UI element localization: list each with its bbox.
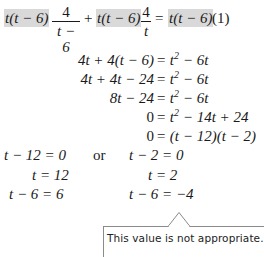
- step-3-rhs: = t2 − 6t: [156, 90, 208, 107]
- step-3-lhs: 8t − 24: [110, 90, 154, 107]
- step-1-lhs: 4t + 4(t − 6): [78, 52, 154, 69]
- highlight-term-1: t(t − 6): [4, 10, 49, 27]
- fraction-4-over-t: 4 t: [141, 4, 151, 39]
- fraction-4-over-t-minus-6: 4 t − 6: [52, 4, 80, 55]
- case-right-2: t = 2: [148, 167, 177, 184]
- plus-sign: +: [84, 10, 92, 27]
- step-2-rhs: = t2 − 6t: [156, 71, 208, 88]
- step-2-lhs: 4t + 4t − 24: [80, 71, 154, 88]
- case-left-3: t − 6 = 6: [9, 186, 63, 203]
- step-1-rhs: = t2 − 6t: [156, 52, 208, 69]
- highlight-term-3: t(t − 6): [168, 10, 213, 27]
- case-left-2: t = 12: [32, 167, 69, 184]
- step-4-rhs: = t2 − 14t + 24: [156, 109, 248, 126]
- case-left-1: t − 12 = 0: [4, 147, 66, 164]
- step-5-rhs: = (t − 12)(t − 2): [156, 128, 256, 145]
- equals-sign: =: [155, 10, 163, 27]
- case-right-1: t − 2 = 0: [129, 147, 183, 164]
- callout-pointer-icon: [168, 212, 190, 227]
- step-4-lhs: 0: [147, 109, 155, 126]
- step-5-lhs: 0: [147, 128, 155, 145]
- case-right-3: t − 6 = −4: [129, 186, 194, 203]
- callout-text: This value is not appropriate.: [107, 232, 264, 244]
- or-label: or: [93, 147, 106, 164]
- highlight-term-2: t(t − 6): [96, 10, 141, 27]
- equation-label: (1): [212, 10, 230, 27]
